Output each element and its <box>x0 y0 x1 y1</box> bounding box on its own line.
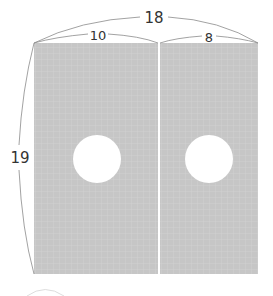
total-width-label: 18 <box>144 9 163 27</box>
left-hole <box>73 135 121 183</box>
right-width-label: 8 <box>205 30 213 45</box>
right-hole <box>185 135 233 183</box>
bottom-arc-fragment <box>27 290 64 296</box>
height-label: 19 <box>10 149 29 167</box>
diagram: 18 10 8 19 <box>0 0 273 296</box>
left-width-label: 10 <box>90 28 107 43</box>
